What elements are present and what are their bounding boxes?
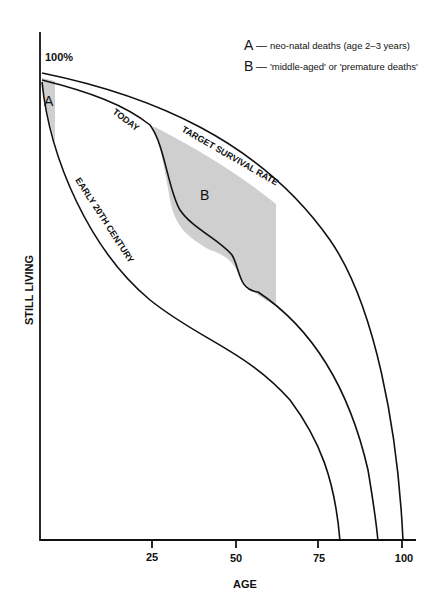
region-a-shade [42, 78, 55, 142]
y-axis-label: STILL LIVING [23, 255, 35, 325]
legend-a-text: neo-natal deaths (age 2–3 years) [270, 40, 410, 51]
region-b-label: B [200, 187, 209, 203]
region-a-label: A [44, 93, 54, 109]
x-tick-label-25: 25 [146, 551, 158, 563]
legend-b-dash: — [256, 60, 267, 72]
curve-label-today: TODAY [111, 107, 141, 133]
region-b-shade [153, 126, 276, 306]
y-top-label: 100% [45, 51, 73, 63]
legend-a-key: A [244, 37, 254, 53]
survival-chart: 25 50 75 100 AGE STILL LIVING 100% A — n… [0, 0, 439, 616]
x-tick-label-75: 75 [313, 552, 325, 564]
legend-b-key: B [244, 58, 253, 74]
x-tick-label-50: 50 [230, 552, 242, 564]
legend: A — neo-natal deaths (age 2–3 years) B —… [244, 37, 418, 74]
legend-a-dash: — [256, 39, 267, 51]
x-tick-label-100: 100 [395, 552, 413, 564]
target-survival-curve [42, 73, 403, 541]
x-axis-label: AGE [233, 578, 257, 590]
legend-b-text: 'middle-aged' or 'premature deaths' [270, 61, 418, 72]
